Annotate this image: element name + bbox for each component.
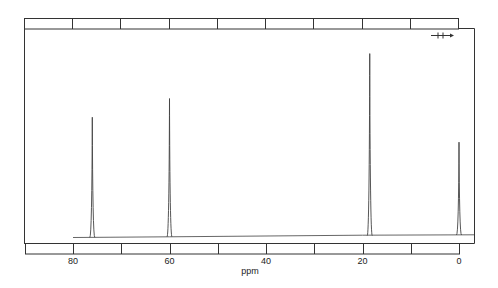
x-tick-label: 60 — [164, 256, 174, 266]
x-tick-label: 80 — [68, 256, 78, 266]
spectrum-peak — [90, 117, 95, 237]
x-tick-label: 0 — [456, 256, 461, 266]
bottom-scale-strip — [26, 244, 460, 255]
spectrum-peak — [457, 142, 462, 235]
sweep-direction-icon — [431, 33, 454, 39]
spectrum-peak — [167, 99, 172, 237]
spectrum-trace — [73, 54, 474, 238]
x-axis-label: ppm — [241, 266, 259, 276]
spectrum-peak — [367, 54, 372, 236]
x-tick-label: 40 — [261, 256, 271, 266]
x-tick-label: 20 — [357, 256, 367, 266]
top-scale-strip — [25, 19, 459, 30]
x-tick-labels: 806040200 — [68, 256, 462, 266]
nmr-spectrum-chart: 806040200 ppm — [0, 0, 498, 288]
